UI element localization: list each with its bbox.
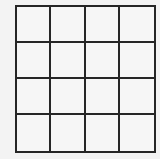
grid-cell [51, 79, 85, 115]
grid-cell [120, 43, 154, 79]
grid-cell [17, 79, 51, 115]
grid-cell [86, 7, 120, 43]
grid-cell [120, 115, 154, 151]
grid-cell [17, 115, 51, 151]
grid-cell [86, 79, 120, 115]
grid-cell [51, 43, 85, 79]
grid-cell [51, 7, 85, 43]
grid-cell [86, 43, 120, 79]
grid-cell [86, 115, 120, 151]
grid-cell [120, 79, 154, 115]
grid-cell [120, 7, 154, 43]
grid-4x4 [15, 5, 156, 153]
grid-cell [51, 115, 85, 151]
grid-cell [17, 43, 51, 79]
grid-cell [17, 7, 51, 43]
